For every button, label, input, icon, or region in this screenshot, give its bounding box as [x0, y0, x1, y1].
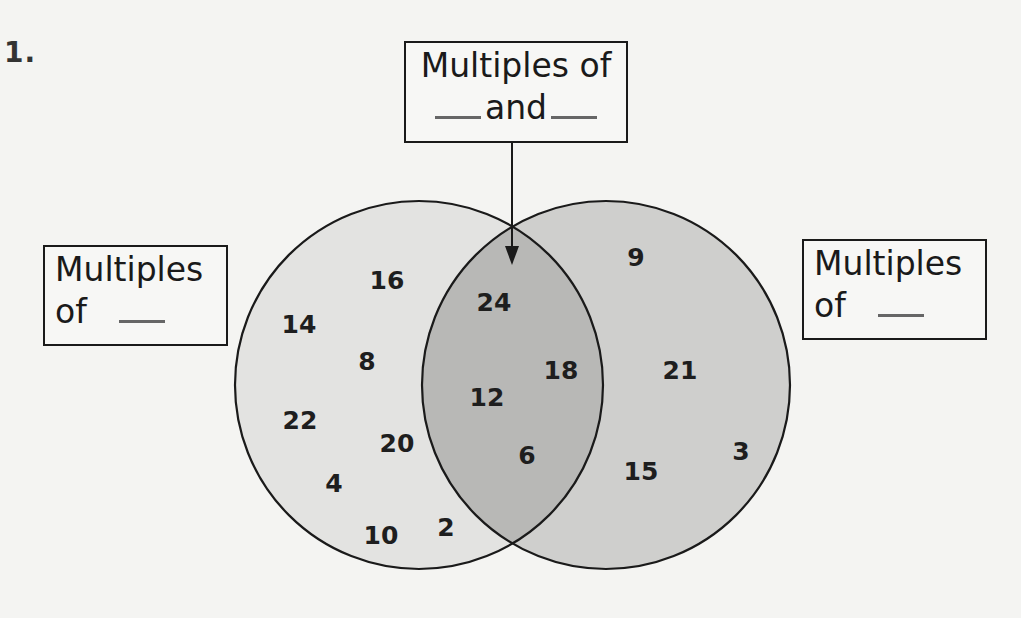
venn-number-right-only: 21 — [663, 358, 698, 383]
venn-number-left-only: 16 — [370, 268, 405, 293]
label-right-line1: Multiples — [814, 243, 977, 285]
venn-number-left-only: 10 — [364, 523, 399, 548]
venn-number-overlap: 24 — [477, 290, 512, 315]
venn-number-left-only: 2 — [437, 515, 454, 540]
venn-number-right-only: 9 — [627, 245, 644, 270]
venn-number-overlap: 12 — [470, 385, 505, 410]
label-and: and — [485, 88, 547, 127]
label-box-right: Multiples of — [802, 239, 987, 340]
blank-field-right[interactable] — [878, 288, 924, 317]
arrow-icon — [505, 142, 519, 265]
label-left-of: of — [55, 292, 87, 331]
venn-number-left-only: 22 — [283, 408, 318, 433]
label-intersection-line2: and — [410, 87, 622, 129]
blank-field-second-factor[interactable] — [551, 90, 597, 119]
venn-number-left-only: 4 — [325, 471, 342, 496]
label-right-line2: of — [814, 285, 977, 327]
venn-number-left-only: 20 — [380, 431, 415, 456]
label-box-left: Multiples of — [43, 245, 228, 346]
blank-field-first-factor[interactable] — [435, 90, 481, 119]
label-right-of: of — [814, 286, 846, 325]
venn-number-overlap: 18 — [544, 358, 579, 383]
venn-number-overlap: 6 — [518, 443, 535, 468]
label-box-intersection: Multiples of and — [404, 41, 628, 143]
label-intersection-line1: Multiples of — [410, 45, 622, 87]
venn-number-left-only: 14 — [282, 312, 317, 337]
label-left-line2: of — [55, 291, 218, 333]
venn-number-right-only: 3 — [732, 439, 749, 464]
blank-field-left[interactable] — [119, 294, 165, 323]
venn-number-right-only: 15 — [624, 459, 659, 484]
venn-number-left-only: 8 — [358, 349, 375, 374]
label-left-line1: Multiples — [55, 249, 218, 291]
